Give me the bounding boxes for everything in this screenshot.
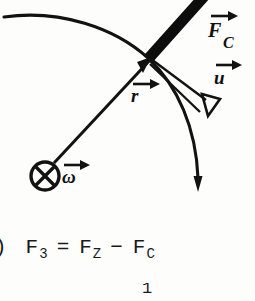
partial-fragment-one: 1 [142, 283, 152, 298]
equation-line: )F3=FZ−FC [0, 236, 255, 262]
trajectory-arc-arrowhead [194, 176, 203, 192]
equation-paren: ) [0, 236, 8, 259]
velocity-vector-line-b [150, 64, 200, 112]
equation-term2-subscript: C [146, 246, 154, 262]
equation-operator: − [110, 236, 124, 259]
partial-next-line: 1 [0, 283, 255, 301]
equation-term1-subscript: Z [93, 246, 101, 262]
equation-lhs-subscript: 3 [39, 246, 47, 262]
equation-equals: = [57, 236, 71, 259]
force-c-label: F [208, 20, 221, 40]
omega-label: ω [62, 167, 76, 186]
radius-vector [54, 60, 150, 163]
equation-term1: F [79, 236, 93, 259]
velocity-vector-arrowhead [202, 94, 220, 116]
force-c-label-subscript: C [223, 35, 234, 51]
radius-label: r [131, 86, 138, 105]
equation-term2: F [133, 236, 147, 259]
equation-lhs: F [26, 236, 40, 259]
velocity-label: u [214, 68, 225, 87]
velocity-vector-line-a [151, 59, 206, 100]
